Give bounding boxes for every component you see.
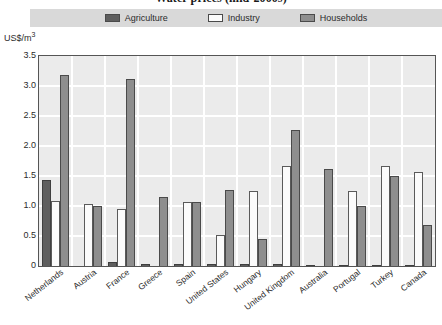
y-tick-label: 3.5: [2, 50, 36, 60]
bar-industry: [414, 172, 423, 266]
legend-item-households: Households: [300, 13, 368, 23]
x-tick-label: Canada: [398, 267, 428, 293]
bar-agriculture: [207, 264, 216, 266]
x-tick-label: Netherlands: [22, 267, 64, 303]
bar-industry: [117, 209, 126, 266]
bar-agriculture: [42, 180, 51, 266]
bar-group: [39, 56, 72, 266]
bar-industry: [51, 201, 60, 266]
bar-agriculture: [240, 264, 249, 266]
x-tick-label: Spain: [173, 267, 196, 288]
y-axis-unit-text: US$/m: [4, 33, 32, 43]
legend-swatch-households: [300, 14, 315, 22]
bar-agriculture: [372, 265, 381, 266]
bar-households: [192, 202, 201, 266]
legend-label-industry: Industry: [228, 13, 260, 23]
x-tick-label: France: [104, 267, 131, 291]
x-tick-label: Greece: [136, 267, 164, 292]
bar-households: [258, 239, 267, 266]
legend-swatch-agriculture: [105, 14, 120, 22]
bar-group: [369, 56, 402, 266]
bar-industry: [84, 204, 93, 266]
y-tick-label: 1.5: [2, 170, 36, 180]
bar-group: [402, 56, 435, 266]
x-tick-label: Australia: [296, 267, 328, 295]
bar-industry: [348, 191, 357, 266]
x-tick-label: Portugal: [331, 267, 362, 294]
bar-group: [336, 56, 369, 266]
bar-group: [105, 56, 138, 266]
bar-households: [126, 79, 135, 266]
legend-item-industry: Industry: [208, 13, 260, 23]
bar-households: [93, 206, 102, 266]
page-title: Water prices (mid-2000s): [0, 0, 442, 6]
bar-group: [270, 56, 303, 266]
bars-layer: [39, 56, 435, 266]
legend-label-agriculture: Agriculture: [125, 13, 168, 23]
y-axis-unit-label: US$/m3: [4, 31, 35, 43]
legend-label-households: Households: [320, 13, 368, 23]
bar-agriculture: [339, 265, 348, 266]
bar-agriculture: [306, 265, 315, 266]
y-tick-label: 0.5: [2, 230, 36, 240]
bar-group: [237, 56, 270, 266]
bar-group: [138, 56, 171, 266]
y-tick-label: 1.0: [2, 200, 36, 210]
bar-households: [423, 225, 432, 266]
bar-group: [171, 56, 204, 266]
bar-households: [357, 206, 366, 266]
plot-area: [38, 55, 436, 267]
y-axis-ticks: 00.51.01.52.02.53.03.5: [0, 55, 36, 265]
chart-legend: Agriculture Industry Households: [30, 9, 442, 27]
bar-industry: [381, 166, 390, 266]
x-tick-label: Austria: [71, 267, 98, 291]
y-tick-label: 0: [2, 260, 36, 270]
bar-households: [390, 176, 399, 266]
bar-industry: [216, 235, 225, 266]
bar-households: [60, 75, 69, 266]
bar-agriculture: [141, 264, 150, 266]
bar-agriculture: [174, 264, 183, 266]
bar-industry: [282, 166, 291, 266]
x-axis-ticks: NetherlandsAustriaFranceGreeceSpainUnite…: [38, 267, 434, 325]
bar-group: [72, 56, 105, 266]
bar-households: [159, 197, 168, 266]
y-tick-label: 2.0: [2, 140, 36, 150]
bar-group: [303, 56, 336, 266]
bar-households: [225, 190, 234, 266]
y-axis-unit-exponent: 3: [32, 31, 36, 38]
y-tick-label: 2.5: [2, 110, 36, 120]
legend-swatch-industry: [208, 14, 223, 22]
bar-industry: [183, 202, 192, 266]
bar-agriculture: [405, 265, 414, 266]
y-tick-label: 3.0: [2, 80, 36, 90]
legend-item-agriculture: Agriculture: [105, 13, 168, 23]
bar-industry: [249, 191, 258, 266]
bar-households: [324, 169, 333, 266]
bar-agriculture: [273, 264, 282, 266]
bar-agriculture: [108, 262, 117, 266]
bar-group: [204, 56, 237, 266]
bar-households: [291, 130, 300, 266]
x-tick-label: Turkey: [368, 267, 394, 291]
